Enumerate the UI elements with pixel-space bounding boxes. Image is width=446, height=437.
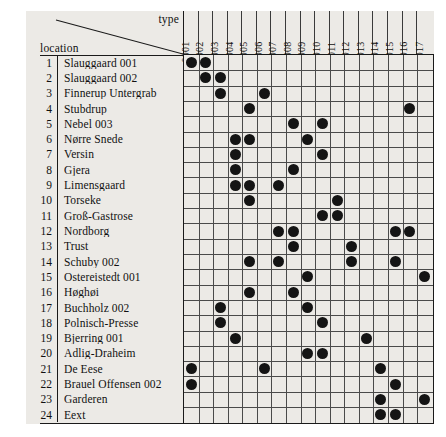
table-row[interactable]: 10Torseke — [26, 193, 183, 208]
table-row[interactable]: 1Slauggaard 001 — [26, 55, 183, 70]
table-row[interactable]: 9Limensgaard — [26, 177, 183, 192]
grid-line-horizontal — [184, 193, 433, 194]
table-row[interactable]: 22Brauel Offensen 002 — [26, 376, 183, 391]
matrix-dot[interactable] — [317, 348, 328, 359]
matrix-dot[interactable] — [200, 72, 211, 83]
matrix-dot[interactable] — [259, 363, 270, 374]
location-label: Ostereistedt 001 — [58, 271, 183, 283]
matrix-dot[interactable] — [361, 333, 372, 344]
table-row[interactable]: 20Adlig-Draheim — [26, 346, 183, 361]
matrix-dot[interactable] — [419, 271, 430, 282]
grid-line-horizontal — [184, 223, 433, 224]
row-number: 2 — [26, 72, 57, 84]
matrix-dot[interactable] — [215, 72, 226, 83]
matrix-dot[interactable] — [302, 348, 313, 359]
table-row[interactable]: 5Nebel 003 — [26, 116, 183, 131]
grid-line-horizontal — [184, 315, 433, 316]
table-row[interactable]: 18Polnisch-Presse — [26, 315, 183, 330]
matrix-dot[interactable] — [317, 210, 328, 221]
matrix-dot[interactable] — [375, 394, 386, 405]
row-number: 1 — [26, 57, 57, 69]
row-number: 9 — [26, 179, 57, 191]
table-row[interactable]: 19Bjerring 001 — [26, 331, 183, 346]
matrix-dot[interactable] — [215, 88, 226, 99]
matrix-dot[interactable] — [375, 409, 386, 420]
table-row[interactable]: 16Høghøi — [26, 285, 183, 300]
matrix-dot[interactable] — [317, 118, 328, 129]
table-row[interactable]: 12Nordborg — [26, 223, 183, 238]
grid-line-horizontal — [184, 177, 433, 178]
matrix-dot[interactable] — [273, 226, 284, 237]
matrix-dot[interactable] — [302, 134, 313, 145]
matrix-dot[interactable] — [390, 379, 401, 390]
location-label: Versin — [58, 148, 183, 160]
table-row[interactable]: 6Nørre Snede — [26, 132, 183, 147]
row-number: 10 — [26, 194, 57, 206]
table-row[interactable]: 2Slauggaard 002 — [26, 70, 183, 85]
table-row[interactable]: 14Schuby 002 — [26, 254, 183, 269]
matrix-dot[interactable] — [259, 88, 270, 99]
matrix-dot[interactable] — [273, 256, 284, 267]
matrix-dot[interactable] — [404, 226, 415, 237]
location-label: Torseke — [58, 194, 183, 206]
matrix-dot[interactable] — [244, 256, 255, 267]
matrix-dot[interactable] — [230, 333, 241, 344]
figure-page: type location 00010002000300040005000600… — [0, 0, 446, 437]
matrix-dot[interactable] — [404, 103, 415, 114]
table-row[interactable]: 21De Eese — [26, 361, 183, 376]
matrix-dot[interactable] — [346, 256, 357, 267]
table-row[interactable]: 24Eext — [26, 407, 183, 422]
matrix-dot[interactable] — [390, 226, 401, 237]
column-header-0017: 0017 — [417, 11, 432, 54]
table-row[interactable]: 11Groß-Gastrose — [26, 208, 183, 223]
matrix-dot[interactable] — [244, 180, 255, 191]
table-row[interactable]: 17Buchholz 002 — [26, 300, 183, 315]
location-label: Nebel 003 — [58, 118, 183, 130]
matrix-dot[interactable] — [186, 57, 197, 68]
matrix-dot[interactable] — [302, 302, 313, 313]
matrix-dot[interactable] — [288, 241, 299, 252]
matrix-dot[interactable] — [375, 363, 386, 374]
table-row[interactable]: 4Stubdrup — [26, 101, 183, 116]
matrix-dot[interactable] — [419, 394, 430, 405]
row-number: 8 — [26, 164, 57, 176]
table-row[interactable]: 23Garderen — [26, 392, 183, 407]
matrix-dot[interactable] — [244, 195, 255, 206]
matrix-dot[interactable] — [390, 256, 401, 267]
table-row[interactable]: 15Ostereistedt 001 — [26, 269, 183, 284]
grid-line-horizontal — [184, 86, 433, 87]
matrix-dot[interactable] — [317, 149, 328, 160]
row-number: 23 — [26, 393, 57, 405]
matrix-dot[interactable] — [273, 180, 284, 191]
matrix-dot[interactable] — [186, 363, 197, 374]
matrix-dot[interactable] — [186, 379, 197, 390]
matrix-dot[interactable] — [317, 317, 328, 328]
axis-label-location: location — [40, 42, 79, 54]
table-row[interactable]: 8Gjera — [26, 162, 183, 177]
matrix-dot[interactable] — [230, 164, 241, 175]
location-label: Groß-Gastrose — [58, 210, 183, 222]
matrix-dot[interactable] — [244, 134, 255, 145]
grid-line-horizontal — [184, 162, 433, 163]
matrix-dot[interactable] — [288, 164, 299, 175]
matrix-dot[interactable] — [288, 118, 299, 129]
matrix-dot[interactable] — [288, 226, 299, 237]
matrix-dot[interactable] — [302, 271, 313, 282]
table-row[interactable]: 13Trust — [26, 239, 183, 254]
location-label: Adlig-Draheim — [58, 347, 183, 359]
table-row[interactable]: 3Finnerup Untergrab — [26, 86, 183, 101]
matrix-dot[interactable] — [346, 241, 357, 252]
table-row[interactable]: 7Versin — [26, 147, 183, 162]
matrix-dot[interactable] — [215, 302, 226, 313]
matrix-dot[interactable] — [230, 134, 241, 145]
matrix-dot[interactable] — [230, 149, 241, 160]
matrix-dot[interactable] — [200, 57, 211, 68]
matrix-dot[interactable] — [244, 287, 255, 298]
matrix-dot[interactable] — [230, 180, 241, 191]
matrix-dot[interactable] — [332, 210, 343, 221]
matrix-dot[interactable] — [332, 195, 343, 206]
matrix-dot[interactable] — [288, 287, 299, 298]
matrix-dot[interactable] — [215, 317, 226, 328]
matrix-dot[interactable] — [244, 103, 255, 114]
matrix-dot[interactable] — [390, 409, 401, 420]
